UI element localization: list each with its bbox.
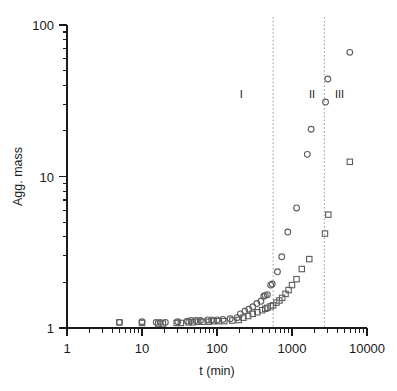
x-axis-tick-label: 1 (63, 341, 70, 356)
series-squares (117, 159, 353, 326)
data-point-square (322, 231, 327, 236)
data-point-square (326, 212, 331, 217)
data-point-square (307, 256, 312, 261)
data-point-circle (325, 76, 331, 82)
data-point-circle (304, 151, 310, 157)
data-point-circle (347, 49, 353, 55)
data-point-square (347, 159, 352, 164)
region-label-one: I (240, 88, 243, 100)
x-axis-tick-label: 10000 (349, 341, 385, 356)
data-point-square (294, 276, 299, 281)
y-axis-tick-label: 10 (40, 170, 54, 185)
region-label-two: II (309, 88, 315, 100)
data-point-circle (227, 316, 233, 322)
data-point-circle (308, 126, 314, 132)
region-label-three: III (335, 88, 344, 100)
x-axis-tick-label: 100 (206, 341, 228, 356)
x-axis-tick-label: 10 (135, 341, 149, 356)
data-point-circle (275, 269, 281, 275)
data-point-circle (117, 319, 123, 325)
x-axis-title: t (min) (199, 364, 234, 378)
y-axis-tick-label: 1 (47, 321, 54, 336)
data-point-circle (279, 254, 285, 260)
series-circles (117, 49, 353, 325)
agg-mass-vs-time-log-log-scatter-plot: 110100100010000t (min)110100Agg. massIII… (0, 0, 397, 391)
data-point-circle (294, 205, 300, 211)
data-point-circle (285, 229, 291, 235)
x-axis-tick-label: 1000 (278, 341, 307, 356)
data-point-square (299, 266, 304, 271)
chart-figure: 110100100010000t (min)110100Agg. massIII… (0, 0, 397, 391)
y-axis-tick-label: 100 (32, 18, 54, 33)
data-point-circle (323, 99, 329, 105)
y-axis-title: Agg. mass (11, 147, 25, 206)
